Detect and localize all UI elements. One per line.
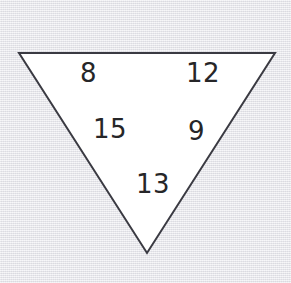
figure-canvas: 8 12 15 9 13 bbox=[0, 0, 291, 283]
number-label-8: 8 bbox=[80, 60, 97, 86]
number-label-13: 13 bbox=[136, 171, 170, 197]
number-label-15: 15 bbox=[93, 116, 127, 142]
number-label-12: 12 bbox=[186, 60, 220, 86]
triangle-shape bbox=[0, 0, 291, 283]
number-label-9: 9 bbox=[188, 118, 205, 144]
triangle-polygon bbox=[19, 53, 275, 253]
